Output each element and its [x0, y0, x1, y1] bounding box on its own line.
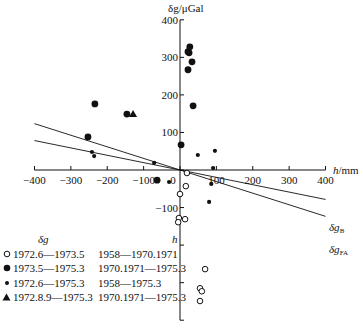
legend-entry: 1972.6—1973.5 1958—1970.1971: [2, 247, 262, 262]
open-circle-point: [182, 216, 188, 222]
y-tick-label: 400: [162, 14, 179, 26]
legend-header-dg: δg: [2, 232, 134, 247]
small-filled-point: [90, 150, 94, 154]
open-circle-point: [184, 170, 190, 176]
large-filled-point: [123, 111, 130, 118]
legend-header: δg h: [2, 232, 262, 247]
small-filled-point: [211, 166, 215, 170]
large-filled-point: [154, 177, 161, 184]
x-tick-label: 300: [281, 174, 298, 186]
large-filled-point: [91, 101, 98, 108]
small-filled-point: [207, 200, 211, 204]
legend-dg-period: 1973.5—1975.3: [13, 261, 85, 276]
open-circle-point: [175, 219, 181, 225]
y-axis-title: δg/μGal: [168, 2, 204, 14]
line-label-dg-b: δgB: [329, 221, 345, 235]
small-filled-circle-icon: [2, 276, 11, 291]
legend-entry: 1973.5—1975.3 1970.1971—1975.3: [2, 261, 262, 276]
x-tick-label: 200: [245, 174, 262, 186]
small-filled-point: [196, 153, 200, 157]
small-filled-point: [152, 161, 156, 165]
large-filled-point: [186, 43, 193, 50]
open-circle-point: [183, 183, 189, 189]
x-tick-label: −200: [96, 174, 119, 186]
x-axis-title: h/mm: [333, 164, 359, 176]
large-filled-point: [85, 134, 92, 141]
legend-h-period: 1958—1975.3: [98, 276, 188, 291]
triangle-point: [129, 110, 137, 117]
y-tick-label: 300: [162, 51, 179, 63]
legend: δg h 1972.6—1973.5 1958—1970.1971 1973.5…: [2, 232, 262, 305]
large-filled-point: [178, 141, 185, 148]
large-filled-circle-icon: [2, 261, 11, 276]
small-filled-point: [92, 154, 96, 158]
small-filled-point: [167, 180, 171, 184]
filled-triangle-icon: [2, 290, 11, 305]
y-tick-label: 100: [162, 126, 179, 138]
x-tick-label: 400: [317, 174, 334, 186]
open-circle-point: [177, 191, 183, 197]
x-tick-label: −100: [132, 174, 155, 186]
large-filled-point: [189, 58, 196, 65]
tick-labels: −400−300−200−100010020030040040030020010…: [23, 14, 334, 214]
x-tick-label: −400: [23, 174, 46, 186]
large-filled-point: [186, 49, 193, 56]
x-tick-label: 0: [170, 174, 176, 186]
y-tick-label: 200: [162, 89, 179, 101]
legend-dg-period: 1972.6—1973.5: [13, 247, 85, 262]
legend-entry: 1972.6—1975.3 1958—1975.3: [2, 276, 262, 291]
small-filled-point: [213, 149, 217, 153]
legend-header-h: h: [134, 232, 262, 247]
small-filled-point: [209, 182, 213, 186]
x-tick-label: −300: [60, 174, 83, 186]
legend-entry: 1972.8.9—1975.3 1970.1971—1975.3: [2, 290, 262, 305]
legend-dg-period: 1972.6—1975.3: [13, 276, 85, 291]
open-circle-icon: [2, 247, 11, 262]
legend-dg-period: 1972.8.9—1975.3: [13, 290, 93, 305]
legend-h-period: 1970.1971—1975.3: [98, 290, 188, 305]
legend-h-period: 1958—1970.1971: [98, 247, 188, 262]
y-tick-label: −100: [155, 202, 178, 214]
line-label-dg-fa: δgFA: [329, 243, 348, 257]
legend-h-period: 1970.1971—1975.3: [98, 261, 188, 276]
large-filled-point: [185, 66, 192, 73]
large-filled-point: [190, 102, 197, 109]
